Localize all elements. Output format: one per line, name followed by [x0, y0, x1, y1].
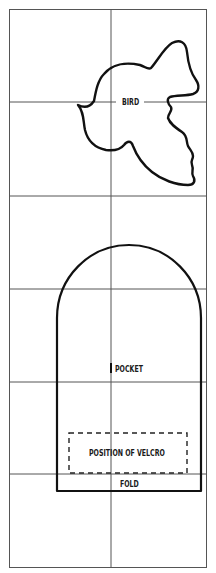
velcro-label: POSITION OF VELCRO: [89, 448, 165, 458]
pocket-label: POCKET: [115, 364, 143, 374]
bird-outline: [78, 41, 198, 185]
pattern-sheet: [0, 0, 216, 573]
fold-label: FOLD: [120, 479, 139, 489]
bird-label: BIRD: [122, 97, 139, 107]
